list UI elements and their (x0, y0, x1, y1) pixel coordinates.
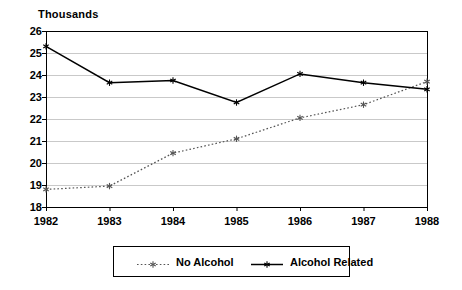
data-point-marker (150, 261, 156, 267)
data-point-marker (424, 78, 430, 84)
legend-label: No Alcohol (176, 256, 234, 268)
gridlines (46, 32, 427, 186)
x-tick-label: 1985 (215, 215, 259, 227)
legend-label: Alcohol Related (290, 256, 373, 268)
x-tick-label: 1987 (342, 215, 386, 227)
chart-legend: No AlcoholAlcohol Related (113, 246, 350, 277)
x-tick-label: 1982 (24, 215, 68, 227)
data-point-marker (297, 115, 303, 121)
legend-item[interactable]: No Alcohol (136, 247, 234, 276)
x-tick-label: 1984 (151, 215, 195, 227)
data-point-marker (43, 43, 49, 49)
series-line (46, 46, 427, 102)
x-tick-label: 1988 (405, 215, 449, 227)
data-point-marker (43, 186, 49, 192)
legend-item[interactable]: Alcohol Related (250, 247, 373, 276)
data-point-marker (361, 102, 367, 108)
series-alcohol-related (43, 43, 430, 105)
y-axis-ticks (42, 32, 46, 208)
legend-swatch-icon (136, 256, 170, 268)
line-chart: Thousands 181920212223242526 19821983198… (0, 0, 462, 290)
legend-swatch-icon (250, 256, 284, 268)
x-tick-label: 1986 (278, 215, 322, 227)
series-no-alcohol (43, 78, 430, 192)
x-tick-label: 1983 (88, 215, 132, 227)
